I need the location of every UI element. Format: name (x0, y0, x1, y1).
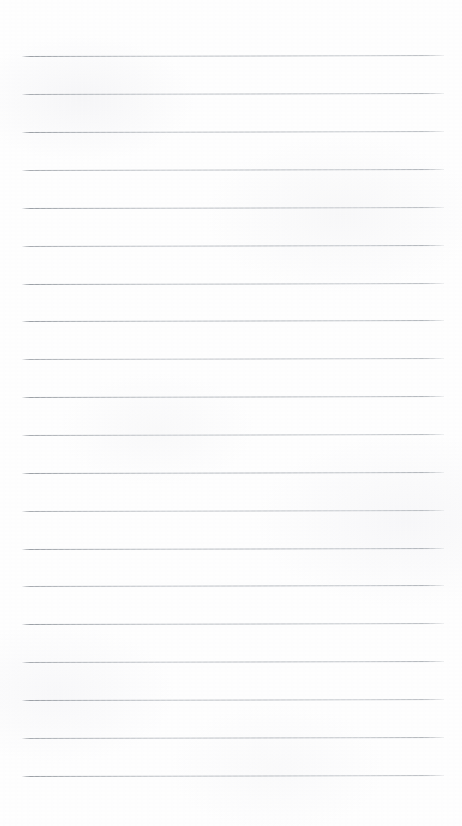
rule-line (22, 55, 444, 57)
rule-line (22, 207, 444, 209)
rule-line (22, 699, 444, 701)
rule-line (22, 245, 444, 247)
rule-line (22, 283, 444, 285)
rule-line (22, 661, 444, 663)
lined-paper-page (0, 0, 462, 826)
ruled-lines-group (0, 0, 462, 826)
rule-line (22, 131, 444, 133)
rule-line (22, 737, 444, 739)
rule-line (22, 548, 444, 550)
rule-line (22, 510, 444, 512)
rule-line (22, 169, 444, 171)
rule-line (22, 585, 444, 587)
rule-line (22, 320, 444, 322)
rule-line (22, 358, 444, 360)
rule-line (22, 396, 444, 398)
rule-line (22, 93, 444, 95)
rule-line (22, 775, 444, 777)
rule-line (22, 623, 444, 625)
rule-line (22, 472, 444, 474)
rule-line (22, 434, 444, 436)
